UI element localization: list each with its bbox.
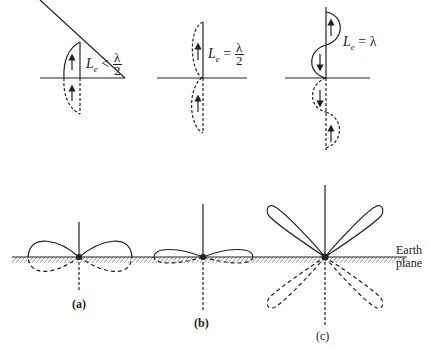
caption-a: (a) <box>72 297 86 312</box>
relation-symbol: = <box>223 46 231 61</box>
wavelength-symbol: λ <box>370 34 377 49</box>
label-length-c: Le = λ <box>343 34 377 52</box>
length-subscript: e <box>94 64 98 74</box>
relation-symbol: < <box>101 56 109 71</box>
label-length-b: Le = λ2 <box>208 42 244 67</box>
length-symbol: L <box>208 46 216 61</box>
denominator: 2 <box>236 55 243 67</box>
caption-c: (c) <box>316 329 329 344</box>
length-subscript: e <box>216 54 220 64</box>
fraction: λ2 <box>113 52 122 77</box>
length-subscript: e <box>351 42 355 52</box>
earth-plane-label: Earth plane <box>396 244 422 270</box>
top-antenna-b <box>157 22 247 133</box>
caption-b: (b) <box>194 316 209 331</box>
fraction: λ2 <box>235 42 244 67</box>
denominator: 2 <box>114 65 121 77</box>
antenna-radiation-diagram: Le < λ2 Le = λ2 Le = λ (a) (b) (c) Earth… <box>0 0 430 349</box>
top-antenna-c <box>285 7 370 150</box>
length-symbol: L <box>86 56 94 71</box>
pattern-c <box>267 185 382 326</box>
length-symbol: L <box>343 34 351 49</box>
earth-plane-label-line2: plane <box>396 257 422 270</box>
relation-symbol: = <box>358 34 366 49</box>
label-length-a: Le < λ2 <box>86 52 122 77</box>
